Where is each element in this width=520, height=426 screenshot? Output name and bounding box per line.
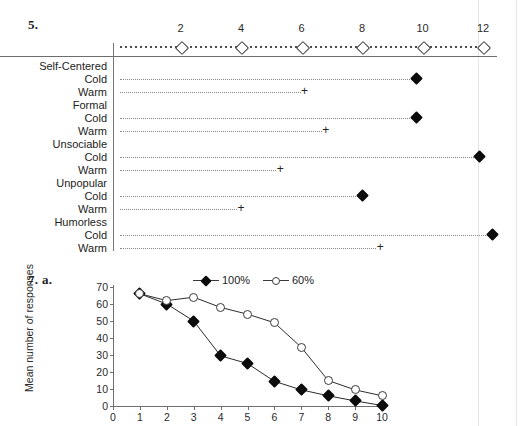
figure-5-data-row: Warm+ (0, 164, 520, 177)
data-point (187, 315, 200, 328)
figure-5-group-heading: Humorless (0, 216, 520, 229)
ruler-dot (320, 46, 322, 48)
leader-line (120, 196, 358, 198)
figure-5-group-heading: Unpopular (0, 177, 520, 190)
diamond-marker (474, 150, 487, 163)
data-point (324, 376, 333, 385)
leader-line (120, 79, 412, 81)
ruler-dot (465, 46, 467, 48)
figure-5-header-rule (0, 56, 497, 57)
data-point (376, 399, 389, 412)
ruler-dot (135, 46, 137, 48)
ruler-dot (385, 46, 387, 48)
leader-line (120, 170, 276, 172)
leader-line (120, 92, 301, 94)
data-point (270, 318, 279, 327)
ruler-dot (145, 46, 147, 48)
ruler-dot (470, 46, 472, 48)
ruler-dot (310, 46, 312, 48)
ruler-dot (285, 46, 287, 48)
ruler-dot (215, 46, 217, 48)
figure-5-data-row: Warm+ (0, 242, 520, 255)
diamond-marker (410, 111, 423, 124)
row-label-warm: Warm (0, 125, 107, 138)
ruler-dot (460, 46, 462, 48)
ruler-dot (140, 46, 142, 48)
data-point (243, 310, 252, 319)
ruler-dot (200, 46, 202, 48)
ruler-dot (350, 46, 352, 48)
axis-diamond-marker-12 (477, 41, 491, 55)
figure-5-data-row: Cold (0, 229, 520, 242)
axis-diamond-marker-10 (416, 41, 430, 55)
leader-line (120, 118, 412, 120)
ruler-dot (190, 46, 192, 48)
diamond-marker (410, 72, 423, 85)
leader-line (120, 209, 237, 211)
figure-5-number-label: 5. (28, 17, 38, 33)
group-label-unsociable: Unsociable (0, 138, 107, 151)
diamond-marker (486, 228, 499, 241)
leader-line (120, 157, 476, 159)
data-point (241, 357, 254, 370)
leader-line (120, 131, 322, 133)
ruler-dot (370, 46, 372, 48)
axis-diamond-marker-6 (295, 41, 309, 55)
ruler-dot (225, 46, 227, 48)
figure-5-data-row: Warm+ (0, 203, 520, 216)
ruler-dot (130, 46, 132, 48)
group-label-self-centered: Self-Centered (0, 60, 107, 73)
row-label-cold: Cold (0, 112, 107, 125)
leader-line (120, 235, 488, 237)
data-point (214, 349, 227, 362)
axis-diamond-marker-2 (174, 41, 188, 55)
data-point (349, 395, 362, 408)
group-label-unpopular: Unpopular (0, 177, 107, 190)
ruler-dot (280, 46, 282, 48)
figure-5-data-row: Cold (0, 190, 520, 203)
ruler-dot (330, 46, 332, 48)
ruler-dot (435, 46, 437, 48)
ruler-dot (255, 46, 257, 48)
data-point (189, 293, 198, 302)
data-point (268, 375, 281, 388)
plus-marker: + (375, 242, 386, 253)
data-point (351, 385, 360, 394)
plus-marker: + (275, 164, 286, 175)
figure-5-tick-label-10: 10 (416, 22, 428, 34)
ruler-dot (290, 46, 292, 48)
row-label-warm: Warm (0, 203, 107, 216)
ruler-dot (345, 46, 347, 48)
figure-7a-line-chart: 7. a. Mean number of responses 010203040… (0, 262, 520, 426)
ruler-dot (410, 46, 412, 48)
ruler-dot (270, 46, 272, 48)
group-label-humorless: Humorless (0, 216, 107, 229)
ruler-dot (230, 46, 232, 48)
ruler-dot (265, 46, 267, 48)
axis-diamond-marker-8 (356, 41, 370, 55)
ruler-dot (455, 46, 457, 48)
row-label-cold: Cold (0, 229, 107, 242)
figure-5-data-row: Warm+ (0, 125, 520, 138)
data-point (295, 383, 308, 396)
figure-5-data-row: Cold (0, 112, 520, 125)
ruler-dot (315, 46, 317, 48)
ruler-dot (440, 46, 442, 48)
ruler-dot (390, 46, 392, 48)
ruler-dot (150, 46, 152, 48)
ruler-dot (170, 46, 172, 48)
ruler-dot (445, 46, 447, 48)
ruler-dot (210, 46, 212, 48)
ruler-dot (160, 46, 162, 48)
ruler-dot (250, 46, 252, 48)
figure-5-tick-label-12: 12 (477, 22, 489, 34)
leader-line (120, 248, 376, 250)
figure-5-group-heading: Unsociable (0, 138, 520, 151)
figure-5-data-row: Warm+ (0, 86, 520, 99)
figure-5-group-heading: Self-Centered (0, 60, 520, 73)
row-label-warm: Warm (0, 164, 107, 177)
ruler-dot (395, 46, 397, 48)
figure-5-dot-chart: 5. 24681012 Self-CenteredColdWarm+Formal… (0, 0, 520, 262)
group-label-formal: Formal (0, 99, 107, 112)
plus-marker: + (299, 86, 310, 97)
